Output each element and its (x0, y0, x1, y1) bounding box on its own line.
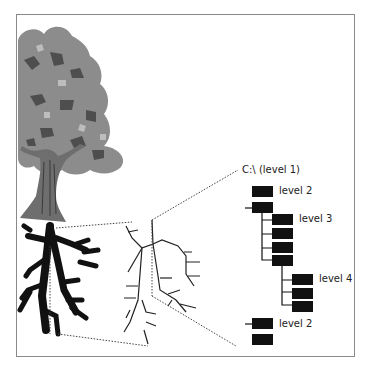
folder-level4-c (292, 301, 313, 312)
zoom-outline-2 (152, 170, 238, 346)
root-drive-label: C:\ (level 1) (242, 165, 300, 175)
folder-level2-a (252, 186, 273, 197)
folder-level3-d (272, 255, 293, 266)
folder-level3-a (272, 214, 293, 225)
level3-label: level 3 (299, 214, 332, 224)
folder-level2-b (252, 202, 273, 213)
tree-roots (20, 226, 98, 334)
level4-label: level 4 (319, 274, 352, 284)
level2-bottom-label: level 2 (279, 319, 312, 329)
folder-level4-b (292, 288, 313, 299)
diagram-artwork (0, 0, 369, 371)
root-line-drawing (124, 220, 200, 344)
level2-top-label: level 2 (279, 186, 312, 196)
folder-level2-c (252, 318, 273, 329)
folder-level4-a (292, 274, 313, 285)
folder-level3-b (272, 228, 293, 239)
folder-level2-d (252, 334, 273, 345)
folder-level3-c (272, 242, 293, 253)
